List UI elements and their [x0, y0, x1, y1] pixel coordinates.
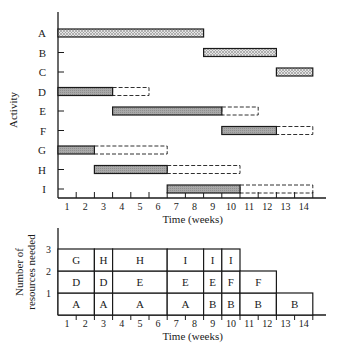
slack-bar	[222, 107, 258, 115]
activity-label: E	[39, 105, 46, 117]
activity-bar-i	[167, 185, 240, 193]
x-tick-label: 8	[192, 318, 197, 329]
resource-cell-label: H	[100, 254, 108, 266]
activity-label: B	[39, 47, 46, 59]
activity-label: F	[40, 125, 46, 137]
activity-label: I	[42, 183, 46, 195]
x-tick-label: 4	[119, 201, 124, 212]
y-tick-label: 1	[46, 288, 51, 299]
x-tick-label: 6	[156, 318, 161, 329]
slack-bar	[167, 166, 240, 174]
resource-cell-label: G	[72, 254, 80, 266]
x-tick-label: 11	[244, 318, 254, 329]
resource-cell-label: A	[72, 298, 80, 310]
slack-bar	[240, 185, 313, 193]
activity-bar-d	[58, 88, 113, 96]
resource-cell-label: E	[137, 276, 144, 288]
x-tick-label: 9	[210, 201, 215, 212]
x-tick-label: 2	[83, 318, 88, 329]
resource-cell-label: D	[72, 276, 80, 288]
x-tick-label: 1	[65, 318, 70, 329]
resource-cell-label: F	[228, 276, 234, 288]
slack-bar	[94, 146, 167, 154]
x-tick-label: 4	[119, 318, 124, 329]
activity-bar-c	[276, 68, 312, 76]
x-tick-label: 3	[101, 201, 106, 212]
x-tick-label: 1	[65, 201, 70, 212]
scheduling-charts: 1234567891011121314Time (weeks)ActivityA…	[0, 0, 346, 358]
y-axis-title-line1: Number of	[13, 248, 25, 296]
resource-cell-label: E	[209, 276, 216, 288]
activity-bar-e	[113, 107, 222, 115]
x-tick-label: 11	[244, 201, 254, 212]
x-tick-label: 7	[174, 318, 179, 329]
activity-bar-b	[204, 49, 277, 57]
x-tick-label: 8	[192, 201, 197, 212]
resource-cell-label: B	[209, 298, 216, 310]
x-tick-label: 5	[137, 318, 142, 329]
y-axis-title: Activity	[7, 91, 19, 128]
resource-cell-label: B	[291, 298, 298, 310]
activity-label: D	[38, 86, 46, 98]
x-tick-label: 14	[299, 318, 309, 329]
y-tick-label: 2	[46, 266, 51, 277]
x-tick-label: 2	[83, 201, 88, 212]
x-tick-label: 7	[174, 201, 179, 212]
resource-cell-label: A	[136, 298, 144, 310]
x-tick-label: 9	[210, 318, 215, 329]
resource-chart: 1231234567891011121314Time (weeks)Number…	[13, 228, 326, 343]
resource-cell-label: A	[100, 298, 108, 310]
x-tick-label: 12	[262, 201, 272, 212]
resource-cell-label: I	[184, 254, 188, 266]
resource-cell-label: B	[227, 298, 234, 310]
resource-cell-label: H	[136, 254, 144, 266]
x-tick-label: 13	[281, 201, 291, 212]
x-tick-label: 12	[262, 318, 272, 329]
activity-bar-g	[58, 146, 94, 154]
activity-label: G	[38, 144, 46, 156]
x-tick-label: 6	[156, 201, 161, 212]
x-tick-label: 5	[137, 201, 142, 212]
x-tick-label: 3	[101, 318, 106, 329]
gantt-chart: 1234567891011121314Time (weeks)ActivityA…	[7, 12, 326, 226]
resource-cell-label: F	[255, 276, 261, 288]
x-tick-label: 13	[281, 318, 291, 329]
activity-bar-h	[94, 166, 167, 174]
resource-cell-label: E	[182, 276, 189, 288]
resource-cell-label: I	[211, 254, 215, 266]
y-tick-label: 3	[46, 244, 51, 255]
x-tick-label: 10	[226, 318, 236, 329]
x-tick-label: 14	[299, 201, 309, 212]
resource-cell-label: B	[255, 298, 262, 310]
activity-bar-f	[222, 127, 277, 135]
x-axis-title: Time (weeks)	[162, 213, 223, 226]
x-tick-label: 10	[226, 201, 236, 212]
resource-cell-label: D	[100, 276, 108, 288]
activity-label: H	[38, 164, 46, 176]
activity-bar-a	[58, 29, 204, 37]
slack-bar	[276, 127, 312, 135]
activity-label: A	[38, 27, 46, 39]
y-axis-title-line2: resources needed	[25, 234, 37, 310]
resource-cell-label: I	[229, 254, 233, 266]
x-axis-title: Time (weeks)	[162, 330, 223, 343]
resource-cell-label: A	[181, 298, 189, 310]
activity-label: C	[39, 66, 46, 78]
slack-bar	[113, 88, 149, 96]
